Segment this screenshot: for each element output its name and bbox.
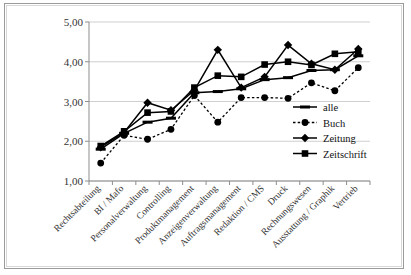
y-axis-tick-label: 4,00 <box>64 56 84 68</box>
legend-label: Buch <box>323 118 346 129</box>
data-point-dash-marker <box>283 76 293 79</box>
data-point-circle-marker <box>261 94 268 101</box>
y-axis-tick-label: 2,00 <box>64 135 84 147</box>
data-point-diamond-marker <box>214 46 222 54</box>
legend-item-buch[interactable]: Buch <box>293 118 346 129</box>
legend-item-zeitschrift[interactable]: Zeitschrift <box>293 149 367 160</box>
data-point-square-marker <box>355 49 362 56</box>
x-axis-tick-label: Vertrieb <box>331 183 360 212</box>
y-axis-tick-label: 1,00 <box>64 175 84 187</box>
data-point-circle-marker <box>97 160 104 167</box>
data-point-square-marker <box>168 108 175 115</box>
legend-item-alle[interactable]: alle <box>293 102 338 113</box>
legend-label: Zeitschrift <box>323 149 367 160</box>
data-point-diamond-marker <box>237 83 245 91</box>
data-point-circle-marker <box>331 87 338 94</box>
data-point-square-marker <box>261 61 268 68</box>
data-point-circle-marker <box>168 126 175 133</box>
data-point-dash-marker <box>306 69 316 72</box>
data-point-square-marker <box>238 74 245 81</box>
data-point-square-marker <box>214 72 221 79</box>
data-point-circle-marker <box>214 119 221 126</box>
legend-item-zeitung[interactable]: Zeitung <box>293 133 356 144</box>
chart-legend: alleBuchZeitungZeitschrift <box>293 102 367 160</box>
data-point-square-marker <box>144 109 151 116</box>
y-axis-tick-label: 3,00 <box>64 96 84 108</box>
series-line <box>101 68 359 163</box>
data-point-circle-marker <box>308 79 315 86</box>
line-chart: 1,002,003,004,005,00 RechtsabteilungBI /… <box>5 4 405 270</box>
chart-outer-frame: 1,002,003,004,005,00 RechtsabteilungBI /… <box>4 3 404 269</box>
data-point-square-marker <box>308 62 315 69</box>
data-point-square-marker <box>302 150 309 157</box>
data-point-dash-marker <box>143 121 153 124</box>
data-point-dash-marker <box>166 117 176 120</box>
x-axis-tick-labels: RechtsabteilungBI / MafoPersonalverwaltu… <box>52 183 360 250</box>
data-point-circle-marker <box>285 95 292 102</box>
data-point-dash-marker <box>300 106 310 109</box>
data-point-square-marker <box>191 84 198 91</box>
y-axis-tick-label: 5,00 <box>64 16 84 28</box>
data-point-dash-marker <box>213 90 223 93</box>
series-zeitschrift <box>97 49 361 150</box>
data-point-circle-marker <box>302 119 309 126</box>
data-point-circle-marker <box>144 136 151 143</box>
data-point-square-marker <box>285 58 292 65</box>
legend-label: alle <box>323 102 338 113</box>
data-point-circle-marker <box>238 94 245 101</box>
data-point-square-marker <box>97 143 104 150</box>
y-axis-tick-labels: 1,002,003,004,005,00 <box>64 16 89 187</box>
data-point-square-marker <box>121 128 128 135</box>
legend-label: Zeitung <box>323 133 356 144</box>
data-point-circle-marker <box>355 64 362 71</box>
data-point-square-marker <box>332 51 339 58</box>
